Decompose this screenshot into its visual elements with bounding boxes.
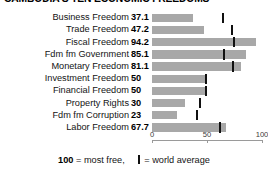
score-bar [152, 75, 207, 83]
row-value: 81.1 [131, 61, 151, 72]
bar-rows: Business Freedom37.1Trade Freedom47.2Fis… [0, 12, 268, 134]
world-average-marker [205, 74, 207, 84]
world-average-marker [205, 86, 207, 96]
row-track [152, 61, 268, 73]
row-label: Labor Freedom [0, 122, 129, 133]
table-row: Trade Freedom47.2 [0, 24, 268, 36]
axis-tick-mark [207, 140, 208, 143]
row-label: Fiscal Freedom [0, 37, 129, 48]
row-track [152, 36, 268, 48]
axis-tick-mark [262, 140, 263, 143]
row-value: 23 [131, 110, 151, 121]
score-bar [152, 26, 204, 34]
table-row: Fdm fm Corruption23 [0, 110, 268, 122]
row-track [152, 24, 268, 36]
score-bar [152, 38, 256, 46]
chart-title: CAMBODIA'S TEN ECONOMIC FREEDOMS [4, 0, 266, 4]
row-label: Monetary Freedom [0, 61, 129, 72]
row-track [152, 49, 268, 61]
row-track [152, 97, 268, 109]
row-value: 30 [131, 98, 151, 109]
row-value: 50 [131, 73, 151, 84]
world-average-marker [199, 98, 201, 108]
axis-tick-label: 100 [256, 130, 268, 139]
world-average-tick-icon [138, 155, 140, 164]
axis-tick-label: 0 [150, 130, 154, 139]
legend-max-text: = most free, [73, 155, 124, 165]
row-value: 67.7 [131, 122, 151, 133]
world-average-marker [231, 25, 233, 35]
row-track [152, 85, 268, 97]
row-label: Business Freedom [0, 12, 129, 23]
score-bar [152, 99, 185, 107]
score-bar [152, 123, 226, 131]
chart-legend: 100 = most free, = world average [0, 155, 268, 165]
score-bar [152, 111, 177, 119]
economic-freedoms-chart: CAMBODIA'S TEN ECONOMIC FREEDOMS Busines… [0, 0, 268, 172]
row-label: Trade Freedom [0, 24, 129, 35]
world-average-marker [232, 61, 234, 71]
world-average-marker [196, 110, 198, 120]
score-bar [152, 87, 207, 95]
row-value: 37.1 [131, 12, 151, 23]
row-track [152, 73, 268, 85]
score-bar [152, 50, 246, 58]
table-row: Financial Freedom50 [0, 85, 268, 97]
axis-tick-mark [152, 140, 153, 143]
world-average-marker [219, 122, 221, 132]
row-value: 47.2 [131, 24, 151, 35]
legend-average-text: = world average [142, 155, 210, 165]
row-value: 94.2 [131, 37, 151, 48]
world-average-marker [222, 13, 224, 23]
row-value: 85.1 [131, 49, 151, 60]
x-axis: 050100 [152, 140, 262, 150]
world-average-marker [233, 37, 235, 47]
legend-max-value: 100 [58, 155, 73, 165]
row-label: Fdm fm Corruption [0, 110, 129, 121]
row-label: Financial Freedom [0, 85, 129, 96]
table-row: Monetary Freedom81.1 [0, 61, 268, 73]
table-row: Labor Freedom67.7 [0, 122, 268, 134]
row-label: Fdm fm Government [0, 49, 129, 60]
table-row: Business Freedom37.1 [0, 12, 268, 24]
row-label: Property Rights [0, 98, 129, 109]
world-average-marker [223, 49, 225, 59]
row-label: Investment Freedom [0, 73, 129, 84]
table-row: Fiscal Freedom94.2 [0, 36, 268, 48]
row-track [152, 110, 268, 122]
score-bar [152, 14, 193, 22]
row-value: 50 [131, 85, 151, 96]
table-row: Fdm fm Government85.1 [0, 49, 268, 61]
score-bar [152, 62, 241, 70]
table-row: Property Rights30 [0, 97, 268, 109]
table-row: Investment Freedom50 [0, 73, 268, 85]
axis-tick-label: 50 [203, 130, 211, 139]
row-track [152, 12, 268, 24]
